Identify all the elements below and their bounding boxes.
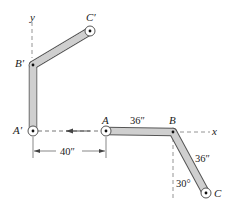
angle-30-label: 30° bbox=[176, 178, 191, 189]
dimension-ab-label: 36″ bbox=[130, 115, 145, 126]
x-axis-label: x bbox=[211, 125, 217, 137]
label-a-prime: A′ bbox=[12, 124, 23, 136]
dimension-bc-label: 36″ bbox=[195, 153, 210, 164]
pin-c-prime bbox=[85, 26, 95, 36]
pin-a-prime bbox=[28, 126, 38, 136]
pin-c bbox=[201, 188, 211, 198]
pin-b-prime bbox=[32, 64, 35, 67]
label-a: A bbox=[101, 114, 109, 126]
label-b-prime: B′ bbox=[15, 57, 25, 69]
y-axis-label: y bbox=[29, 11, 35, 23]
pin-a bbox=[101, 126, 111, 136]
translation-arrow-icon bbox=[66, 129, 73, 134]
label-c-prime: C′ bbox=[86, 11, 96, 23]
pin-b bbox=[172, 131, 175, 134]
dimension-40-label: 40″ bbox=[60, 146, 75, 157]
label-b: B bbox=[169, 114, 176, 126]
diagram-canvas: y x C′ B′ A′ A B C 36″ 36″ 30° 40″ bbox=[0, 0, 234, 208]
label-c: C bbox=[214, 187, 222, 199]
linkage-diagram: y x C′ B′ A′ A B C 36″ 36″ 30° 40″ bbox=[0, 0, 234, 208]
